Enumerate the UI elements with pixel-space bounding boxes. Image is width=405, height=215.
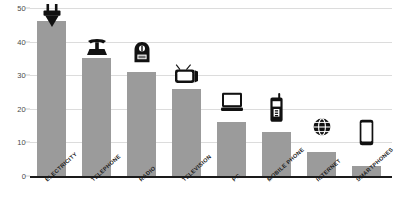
bars-layer bbox=[30, 8, 392, 176]
bar-radio bbox=[127, 72, 156, 176]
x-axis-labels: ELECTRICITY TELEPHONE RADIO TELEVISION P… bbox=[0, 178, 405, 215]
ytick-label-40: 40 bbox=[2, 37, 26, 46]
ytick-label-50: 50 bbox=[2, 4, 26, 13]
bar-telephone bbox=[82, 58, 111, 176]
ytick-label-10: 10 bbox=[2, 138, 26, 147]
vintage-radio-icon bbox=[127, 41, 156, 63]
mobile-phone-icon bbox=[262, 92, 291, 122]
desktop-computer-icon bbox=[217, 90, 246, 112]
ytick-label-20: 20 bbox=[2, 104, 26, 113]
globe-internet-icon bbox=[307, 116, 336, 136]
bar-electricity bbox=[37, 21, 66, 176]
television-icon bbox=[172, 62, 201, 84]
smartphone-icon bbox=[352, 114, 381, 146]
ytick-label-30: 30 bbox=[2, 71, 26, 80]
plug-icon bbox=[37, 2, 66, 28]
bar-chart: 50 40 30 20 10 0 bbox=[0, 0, 405, 215]
bar-pc bbox=[217, 122, 246, 176]
rotary-telephone-icon bbox=[82, 36, 111, 56]
